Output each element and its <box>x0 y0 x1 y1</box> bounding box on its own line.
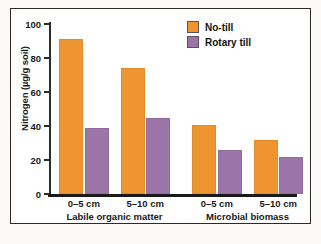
bar-no-till[interactable] <box>59 39 83 194</box>
y-tick-label: 0 <box>36 189 41 200</box>
legend-label-no-till: No-till <box>205 22 233 33</box>
chart-legend: No-till Rotary till <box>187 21 251 48</box>
bar-rotary[interactable] <box>146 118 170 194</box>
y-tick-label: 60 <box>30 87 41 98</box>
y-tick <box>44 23 49 25</box>
x-group-label: Labile organic matter <box>45 211 184 222</box>
y-tick <box>44 159 49 161</box>
chart-figure: Nitrogen (µg/g soil) 0204060801000–5 cm5… <box>0 0 321 244</box>
plot-area: 0204060801000–5 cm5–10 cm0–5 cm5–10 cmLa… <box>49 24 295 194</box>
y-axis-line <box>49 22 51 196</box>
bar-no-till[interactable] <box>254 140 278 194</box>
bar-no-till[interactable] <box>121 68 145 194</box>
y-tick <box>44 193 49 195</box>
x-category-label: 5–10 cm <box>246 198 312 209</box>
x-category-label: 5–10 cm <box>113 198 179 209</box>
bar-no-till[interactable] <box>192 125 216 194</box>
chart-frame: Nitrogen (µg/g soil) 0204060801000–5 cm5… <box>10 8 311 224</box>
x-group-label: Microbial biomass <box>178 211 317 222</box>
y-tick <box>44 91 49 93</box>
y-tick-label: 80 <box>30 53 41 64</box>
x-category-label: 0–5 cm <box>184 198 250 209</box>
bar-rotary[interactable] <box>85 128 109 194</box>
y-tick <box>44 57 49 59</box>
y-tick-label: 100 <box>25 19 41 30</box>
legend-item-no-till[interactable]: No-till <box>187 21 251 33</box>
y-tick-label: 40 <box>30 121 41 132</box>
y-tick-label: 20 <box>30 155 41 166</box>
legend-swatch-no-till <box>187 21 199 33</box>
legend-swatch-rotary-till <box>187 36 199 48</box>
y-axis-title: Nitrogen (µg/g soil) <box>19 14 30 164</box>
x-category-label: 0–5 cm <box>51 198 117 209</box>
bar-rotary[interactable] <box>279 157 303 194</box>
bar-rotary[interactable] <box>218 150 242 194</box>
legend-item-rotary-till[interactable]: Rotary till <box>187 36 251 48</box>
x-axis-line <box>48 194 297 197</box>
legend-label-rotary-till: Rotary till <box>205 37 251 48</box>
y-tick <box>44 125 49 127</box>
